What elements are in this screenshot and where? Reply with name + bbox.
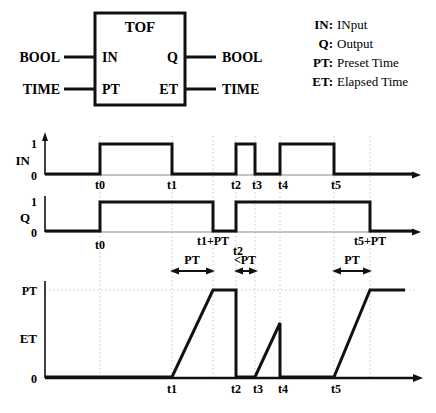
annotation-arrowhead-right-pt-1 [206, 268, 215, 275]
annotation-label-pt-2: PT [344, 253, 359, 267]
legend-abbr-et: ET: [312, 74, 333, 89]
panel-et: PT 0 ET t1 t2 t3 t4 t5 [20, 281, 423, 396]
annotation-label-pt-1: PT [184, 253, 199, 267]
q-ytick-1: 1 [31, 195, 37, 209]
et-ytick-pt: PT [22, 284, 37, 298]
et-axis-label: ET [20, 331, 38, 346]
in-axis-label: IN [16, 153, 31, 168]
legend-meaning-pt: Preset Time [337, 55, 399, 70]
legend-abbr-q: Q: [319, 36, 333, 51]
in-xtick-t5: t5 [331, 178, 341, 192]
q-xtick-t5pt: t5+PT [354, 234, 386, 248]
pin-label-in: IN [102, 50, 118, 65]
in-xtick-t3: t3 [252, 178, 262, 192]
tof-figure: TOF IN PT Q ET BOOL TIME BOOL TIME IN: I… [0, 0, 436, 413]
in-ytick-1: 1 [31, 137, 37, 151]
function-block-name: TOF [125, 19, 156, 35]
et-xtick-t4: t4 [278, 382, 288, 396]
panel-in: 1 0 IN t0 t1 t2 t3 t4 t5 [16, 132, 421, 192]
interval-annotations: PT <PT PT [170, 253, 372, 275]
legend-abbr-in: IN: [314, 17, 333, 32]
legend-group: IN: INput Q: Output PT: Preset Time ET: … [312, 17, 408, 89]
pin-label-et: ET [159, 82, 178, 97]
q-waveform [45, 202, 414, 231]
q-axis-label: Q [20, 210, 30, 225]
annotation-arrowhead-right-lt-pt [249, 268, 258, 275]
panel-q: 1 0 Q t0 t1+PT t2 t5+PT [20, 195, 421, 258]
in-xtick-t4: t4 [278, 178, 288, 192]
et-xtick-t3: t3 [253, 382, 263, 396]
q-ytick-0: 0 [31, 226, 37, 240]
type-label-pt: TIME [23, 82, 60, 97]
pin-label-q: Q [167, 50, 178, 65]
et-x-axis-arrow [413, 374, 423, 382]
in-xtick-t1: t1 [167, 178, 177, 192]
annotation-label-lt-pt: <PT [234, 253, 256, 267]
in-y-axis-arrow [42, 132, 48, 141]
annotation-arrowhead-left-pt-1 [170, 268, 179, 275]
et-ytick-0: 0 [31, 372, 37, 386]
annotation-arrowhead-left-pt-2 [332, 268, 341, 275]
et-xtick-t5: t5 [331, 382, 341, 396]
legend-meaning-in: INput [337, 17, 368, 32]
pin-label-pt: PT [102, 82, 121, 97]
legend-meaning-q: Output [337, 36, 374, 51]
type-label-et: TIME [222, 82, 259, 97]
annotation-arrowhead-left-lt-pt [234, 268, 243, 275]
q-xtick-t1pt: t1+PT [197, 234, 229, 248]
type-label-in: BOOL [20, 50, 60, 65]
q-xtick-t0: t0 [95, 238, 105, 252]
in-ytick-0: 0 [31, 169, 37, 183]
legend-meaning-et: Elapsed Time [337, 74, 408, 89]
type-label-q: BOOL [222, 50, 262, 65]
et-xtick-t2: t2 [231, 382, 241, 396]
in-xtick-t2: t2 [231, 178, 241, 192]
tof-diagram-svg: TOF IN PT Q ET BOOL TIME BOOL TIME IN: I… [0, 0, 436, 413]
et-xtick-t1: t1 [167, 382, 177, 396]
in-xtick-t0: t0 [95, 178, 105, 192]
legend-abbr-pt: PT: [313, 55, 333, 70]
et-waveform [45, 290, 405, 377]
in-waveform [45, 144, 414, 174]
annotation-arrowhead-right-pt-2 [363, 268, 372, 275]
function-block-group: TOF IN PT Q ET BOOL TIME BOOL TIME [20, 13, 263, 105]
